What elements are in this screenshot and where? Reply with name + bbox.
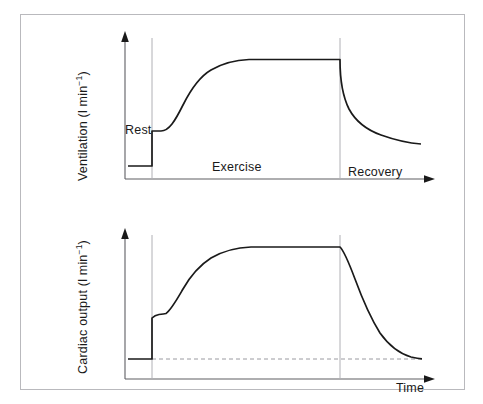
ventilation-response-curve (128, 60, 421, 167)
figure-frame-border: Ventilation (l min−1) Rest Exercise (20, 14, 465, 390)
y-axis-title-ventilation: Ventilation (l min−1) (76, 71, 90, 181)
y-axis-exponent-cardiac-output: −1 (74, 244, 84, 254)
y-axis-arrow-ventilation (121, 31, 129, 42)
plot-svg-ventilation (99, 27, 479, 197)
x-axis-arrow-ventilation (424, 175, 435, 183)
y-axis-title-cardiac-output: Cardiac output (l min−1) (76, 240, 90, 374)
plot-svg-cardiac-output (99, 211, 479, 401)
y-axis-exponent-ventilation: −1 (74, 76, 84, 86)
x-axis-label-time: Time (396, 381, 424, 395)
phase-label-recovery: Recovery (348, 165, 402, 179)
y-axis-arrow-cardiac-output (121, 228, 129, 239)
cardiac-output-response-curve (128, 247, 422, 359)
phase-label-rest: Rest (125, 123, 152, 137)
x-axis-arrow-cardiac-output (424, 375, 435, 383)
figure-root: Ventilation (l min−1) Rest Exercise (0, 0, 483, 404)
phase-label-exercise: Exercise (212, 160, 262, 174)
